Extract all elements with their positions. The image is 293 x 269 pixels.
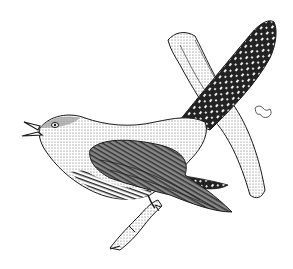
cuckoo-drawing	[0, 0, 293, 269]
beak-lower	[22, 132, 42, 136]
illustration	[0, 0, 293, 269]
wing	[90, 140, 232, 212]
beak-upper	[24, 122, 40, 130]
